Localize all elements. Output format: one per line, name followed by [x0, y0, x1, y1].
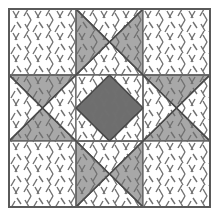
quilt-block-canvas [0, 0, 219, 218]
hatch-texture-layer-b [9, 9, 210, 207]
quilt-block-figure [0, 0, 219, 218]
